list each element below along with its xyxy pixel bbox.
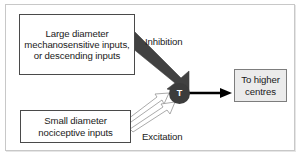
- node-t-cell-label: T: [177, 89, 183, 98]
- output-arrow: [189, 88, 232, 98]
- box-large-diameter-inputs: Large diameter mechanosensitive inputs, …: [19, 14, 135, 75]
- box-large-diameter-inputs-label: Large diameter mechanosensitive inputs, …: [22, 28, 132, 62]
- box-small-diameter-inputs: Small diameter nociceptive inputs: [20, 110, 131, 143]
- diagram-canvas: Large diameter mechanosensitive inputs, …: [6, 5, 294, 150]
- node-t-cell: T: [169, 83, 190, 104]
- box-to-higher-centres-label: To higher centres: [237, 74, 284, 97]
- label-excitation: Excitation: [142, 131, 183, 142]
- diagram-frame: Large diameter mechanosensitive inputs, …: [5, 4, 295, 151]
- box-to-higher-centres: To higher centres: [234, 69, 287, 102]
- label-inhibition: Inhibition: [145, 36, 182, 47]
- box-small-diameter-inputs-label: Small diameter nociceptive inputs: [23, 115, 128, 138]
